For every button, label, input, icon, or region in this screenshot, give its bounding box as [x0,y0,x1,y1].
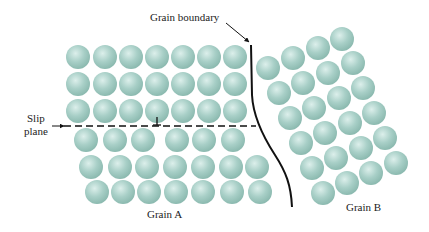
grain-b-atom [281,46,305,70]
grain-a-atom [197,72,221,96]
grain-a-atom [165,128,189,152]
grain-b-atom [335,171,359,195]
grain-a-atom [119,45,143,69]
grain-b-atom [278,106,302,130]
slip-plane-label-line1: Slip [27,113,45,124]
slip-plane-label-line2: plane [24,126,48,137]
grain-a-atom [248,180,272,204]
grain-b-atom [373,126,397,150]
grain-a-atom [164,180,188,204]
grain-b-label: Grain B [346,202,381,213]
grain-a-atom [192,128,216,152]
grain-b-atom [338,111,362,135]
grain-a-atom [223,45,247,69]
grain-a-atom [93,99,117,123]
grain-a-atom [145,45,169,69]
grain-a-atom [145,72,169,96]
grain-a-atom [93,45,117,69]
grain-a-atom [93,72,117,96]
grain-a-atom [171,99,195,123]
grain-b-atom [359,161,383,185]
grain-a-atom [131,128,155,152]
grain-b-atom [324,146,348,170]
grain-a-atom [79,155,103,179]
grain-a-atom [223,72,247,96]
grain-b-atom [327,86,351,110]
grain-b-atom [306,36,330,60]
grain-b-atom [384,151,408,175]
grain-a-atom [163,155,187,179]
grain-a-atom [245,155,269,179]
grain-a-atoms [66,45,272,204]
grain-b-atom [362,101,386,125]
grain-a-atom [197,99,221,123]
grain-a-atom [171,72,195,96]
grain-a-label: Grain A [147,209,182,220]
grain-a-atom [223,99,247,123]
grain-a-atom [66,45,90,69]
grain-a-atom [137,180,161,204]
grain-a-atom [66,72,90,96]
grain-a-atom [197,45,221,69]
grain-a-atom [191,180,215,204]
grain-a-atom [171,45,195,69]
grain-b-atoms [256,27,408,205]
grain-a-atom [111,180,135,204]
grain-b-atom [341,51,365,75]
grain-a-atom [119,99,143,123]
grain-b-atom [351,76,375,100]
grain-boundary-label: Grain boundary [150,12,219,23]
grain-b-atom [330,27,354,51]
grain-a-atom [66,99,90,123]
grain-a-atom [135,155,159,179]
grain-b-atom [267,81,291,105]
grain-a-atom [85,180,109,204]
grain-a-atom [221,128,245,152]
grain-b-atom [289,131,313,155]
grain-b-atom [313,121,337,145]
grain-a-atom [191,155,215,179]
grain-boundary-diagram [0,0,429,232]
grain-b-atom [256,56,280,80]
grain-boundary-arrow [226,23,249,42]
grain-b-atom [300,156,324,180]
grain-b-atom [316,61,340,85]
grain-a-atom [219,155,243,179]
grain-a-atom [74,128,98,152]
grain-b-atom [311,181,335,205]
grain-a-atom [108,155,132,179]
grain-a-atom [220,180,244,204]
grain-b-atom [302,96,326,120]
grain-b-atom [349,136,373,160]
grain-a-atom [103,128,127,152]
grain-a-atom [119,72,143,96]
grain-b-atom [291,71,315,95]
